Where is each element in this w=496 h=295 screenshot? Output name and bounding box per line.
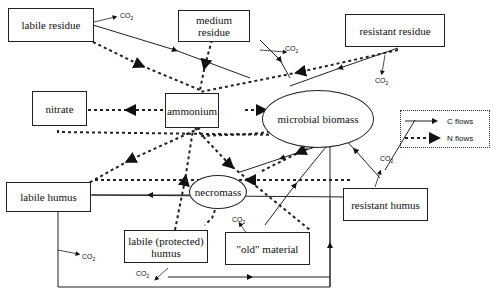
node-microbial-biomass: microbial biomass <box>262 90 374 148</box>
node-label: labile residue <box>22 19 81 31</box>
node-resistant-residue: resistant residue <box>345 14 445 47</box>
node-ammonium: ammonium <box>165 93 219 128</box>
node-label: "old" material <box>237 243 299 255</box>
co2-label: CO2 <box>285 45 298 54</box>
node-label: nitrate <box>45 103 73 115</box>
legend-n-flows: N flows <box>447 134 473 143</box>
node-label: resistant humus <box>351 199 420 211</box>
node-label: labile humus <box>20 191 77 203</box>
node-labile-humus: labile humus <box>6 182 91 212</box>
node-label: medium residue <box>179 14 249 38</box>
co2-label: CO2 <box>82 253 95 262</box>
node-necromass: necromass <box>189 175 247 209</box>
node-label: labile (protected) humus <box>125 235 207 259</box>
co2-label: CO2 <box>375 77 388 86</box>
legend-c-flows: C flows <box>447 117 473 126</box>
node-labile-protected-humus: labile (protected) humus <box>124 230 208 263</box>
co2-label: CO2 <box>232 216 245 225</box>
node-medium-residue: medium residue <box>178 10 250 42</box>
node-resistant-humus: resistant humus <box>343 188 428 221</box>
co2-label: CO2 <box>120 12 133 21</box>
node-label: resistant residue <box>359 25 430 37</box>
node-label: ammonium <box>167 105 217 117</box>
node-nitrate: nitrate <box>32 91 87 126</box>
node-old-material: "old" material <box>225 232 310 265</box>
legend: C flows N flows <box>400 110 490 148</box>
co2-label: CO2 <box>136 270 149 279</box>
node-labile-residue: labile residue <box>8 8 94 42</box>
co2-label: CO2 <box>380 155 393 164</box>
node-label: necromass <box>195 186 241 198</box>
node-label: microbial biomass <box>278 113 359 125</box>
